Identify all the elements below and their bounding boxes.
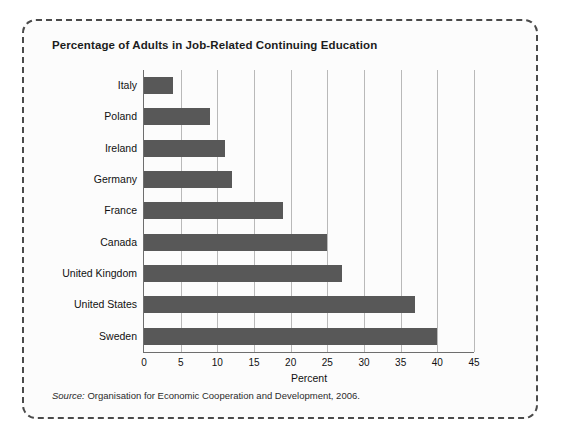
plot-area: 051015202530354045PercentItalyPolandIrel… [143, 70, 474, 353]
y-axis-category-label: Italy [118, 77, 137, 94]
bar-row: France [144, 195, 474, 226]
y-axis-category-label: Germany [94, 171, 137, 188]
bar-row: Canada [144, 227, 474, 258]
source-text: Organisation for Economic Cooperation an… [85, 390, 360, 401]
x-axis-tick-label: 45 [468, 357, 479, 368]
bar [144, 234, 327, 251]
y-axis-category-label: Sweden [99, 328, 137, 345]
bar-row: Sweden [144, 321, 474, 352]
y-axis-category-label: Canada [100, 234, 137, 251]
bar [144, 296, 415, 313]
bar [144, 108, 210, 125]
x-axis-tick-label: 25 [322, 357, 333, 368]
bar-row: Ireland [144, 133, 474, 164]
x-axis-tick-label: 40 [432, 357, 443, 368]
y-axis-category-label: Ireland [105, 140, 137, 157]
bar [144, 202, 283, 219]
bar-row: United Kingdom [144, 258, 474, 289]
y-axis-category-label: United Kingdom [62, 265, 137, 282]
x-axis-tick-label: 10 [212, 357, 223, 368]
y-axis-category-label: Poland [104, 108, 137, 125]
bar [144, 265, 342, 282]
bar-row: United States [144, 289, 474, 320]
bar-row: Poland [144, 101, 474, 132]
x-axis-tick-label: 30 [358, 357, 369, 368]
x-axis-tick-label: 5 [178, 357, 184, 368]
bar-row: Italy [144, 70, 474, 101]
x-axis-label: Percent [291, 372, 327, 384]
source-label: Source: [52, 390, 85, 401]
y-axis-category-label: United States [74, 296, 137, 313]
bar [144, 171, 232, 188]
bar [144, 140, 225, 157]
plot-wrapper: 051015202530354045PercentItalyPolandIrel… [24, 21, 536, 417]
y-axis-category-label: France [104, 202, 137, 219]
figure-container: Percentage of Adults in Job-Related Cont… [22, 19, 538, 419]
x-axis-tick-label: 35 [395, 357, 406, 368]
bar [144, 328, 437, 345]
bar-row: Germany [144, 164, 474, 195]
source-note: Source: Organisation for Economic Cooper… [52, 390, 360, 401]
x-axis-tick-label: 0 [141, 357, 147, 368]
gridline [474, 70, 475, 352]
x-axis-tick-label: 20 [285, 357, 296, 368]
bar [144, 77, 173, 94]
x-axis-tick-label: 15 [248, 357, 259, 368]
